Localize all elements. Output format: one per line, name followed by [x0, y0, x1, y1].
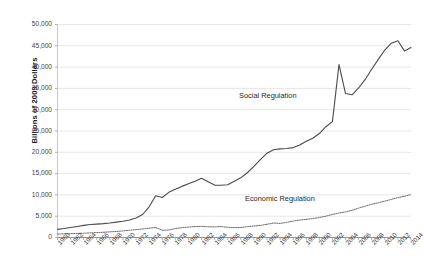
y-axis-tick-label: 50,000: [8, 20, 52, 27]
y-axis-tick-label: 35,000: [8, 84, 52, 91]
y-axis-tick-label: 5,000: [8, 212, 52, 219]
series-annotation-social-regulation: Social Regulation: [239, 91, 297, 100]
series-line-economic-regulation: [58, 195, 412, 234]
y-axis-tick-label: 0: [8, 233, 52, 240]
series-line-social-regulation: [58, 41, 412, 230]
series-annotation-economic-regulation: Economic Regulation: [245, 194, 315, 203]
y-axis-tick-label: 10,000: [8, 191, 52, 198]
y-axis-tick-label: 45,000: [8, 42, 52, 49]
y-axis-tick-label: 25,000: [8, 127, 52, 134]
y-axis-tick-label: 40,000: [8, 63, 52, 70]
y-axis-tick-label: 30,000: [8, 106, 52, 113]
y-axis-tick-label: 20,000: [8, 148, 52, 155]
gridlines: [55, 25, 411, 238]
y-axis-tick-label: 15,000: [8, 169, 52, 176]
series-lines: [58, 41, 412, 234]
